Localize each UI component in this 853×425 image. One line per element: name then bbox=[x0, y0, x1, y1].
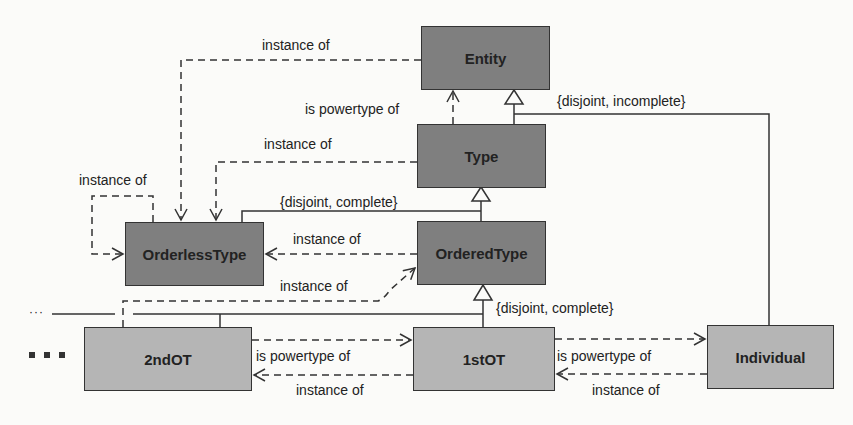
class-individual: Individual bbox=[707, 325, 834, 389]
class-ordered-type-label: OrderedType bbox=[435, 245, 527, 262]
dot-icon bbox=[29, 352, 35, 358]
class-1st-ot-label: 1stOT bbox=[463, 351, 506, 368]
dot-icon bbox=[44, 352, 50, 358]
label-first-individual-powertype: is powertype of bbox=[557, 348, 651, 364]
class-individual-label: Individual bbox=[735, 349, 805, 366]
continuation-large-dots bbox=[29, 352, 65, 358]
label-type-gs: {disjoint, complete} bbox=[280, 194, 398, 210]
edge-individual-generalizes-entity bbox=[514, 114, 769, 325]
dot-icon bbox=[59, 352, 65, 358]
continuation-small-dots: ··· bbox=[29, 305, 44, 319]
label-entity-gs: {disjoint, incomplete} bbox=[557, 93, 685, 109]
class-type: Type bbox=[417, 124, 546, 188]
class-orderless-type-label: OrderlessType bbox=[143, 246, 247, 263]
class-orderless-type: OrderlessType bbox=[125, 222, 264, 286]
label-ordered-gs: {disjoint, complete} bbox=[496, 300, 614, 316]
label-second-first-instance-of: instance of bbox=[296, 382, 364, 398]
label-type-instance-of: instance of bbox=[264, 136, 332, 152]
class-type-label: Type bbox=[465, 148, 499, 165]
label-entity-instance-of: instance of bbox=[262, 37, 330, 53]
label-type-is-powertype-of: is powertype of bbox=[305, 101, 399, 117]
label-ordered-instance-of: instance of bbox=[293, 231, 361, 247]
class-2nd-ot-label: 2ndOT bbox=[144, 351, 192, 368]
class-entity: Entity bbox=[421, 26, 550, 90]
label-second-instance-of-ordered: instance of bbox=[280, 278, 348, 294]
class-ordered-type: OrderedType bbox=[417, 221, 546, 285]
label-second-first-powertype: is powertype of bbox=[256, 348, 350, 364]
uml-diagram: Entity Type OrderlessType OrderedType 2n… bbox=[0, 0, 853, 425]
class-2nd-ot: 2ndOT bbox=[84, 327, 252, 391]
class-1st-ot: 1stOT bbox=[413, 327, 555, 391]
class-entity-label: Entity bbox=[465, 50, 507, 67]
label-first-individual-instance-of: instance of bbox=[592, 382, 660, 398]
label-orderless-self-instance-of: instance of bbox=[79, 172, 147, 188]
